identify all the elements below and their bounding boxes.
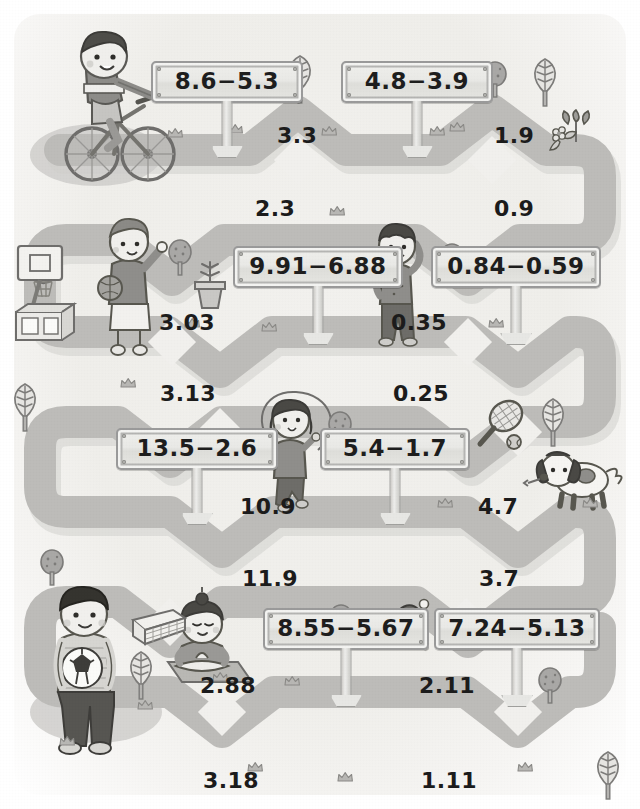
- crown-icon: [489, 319, 503, 327]
- screw-tl: [347, 67, 351, 71]
- answer-3-3: 3.3: [277, 123, 317, 148]
- sign-board: 7.24−5.13: [434, 608, 600, 650]
- sign-post: [390, 468, 401, 514]
- answer-0-9: 0.9: [494, 196, 534, 221]
- screw-bl: [239, 278, 243, 282]
- answer-4-7: 4.7: [478, 494, 518, 519]
- screw-br: [591, 278, 595, 282]
- answer-3-18: 3.18: [203, 768, 259, 793]
- sign-expression: 8.6−5.3: [165, 70, 289, 93]
- sign-expression: 0.84−0.59: [445, 255, 587, 278]
- sign-6: 5.4−1.7: [320, 428, 470, 470]
- crown-icon: [338, 773, 352, 781]
- screw-tr: [460, 434, 464, 438]
- sign-board: 9.91−6.88: [233, 246, 403, 288]
- screw-br: [460, 460, 464, 464]
- screw-tr: [483, 67, 487, 71]
- crown-icon: [60, 737, 74, 745]
- crown-icon: [330, 207, 344, 215]
- sign-4: 0.84−0.59: [431, 246, 601, 288]
- crown-icon: [262, 323, 276, 331]
- crown-icon: [138, 701, 152, 709]
- crown-icon: [450, 123, 464, 131]
- crown-icon: [285, 677, 299, 685]
- sign-board: 8.55−5.67: [263, 608, 429, 650]
- screw-tr: [419, 614, 423, 618]
- screw-br: [393, 278, 397, 282]
- answer-3-7: 3.7: [479, 566, 519, 591]
- sign-3: 9.91−6.88: [233, 246, 403, 288]
- screw-br: [590, 640, 594, 644]
- sign-post: [512, 648, 523, 696]
- sign-2: 4.8−3.9: [341, 61, 493, 103]
- crown-icon: [322, 127, 336, 135]
- sign-8: 7.24−5.13: [434, 608, 600, 650]
- screw-tr: [293, 67, 297, 71]
- screw-tr: [393, 252, 397, 256]
- answer-2-11: 2.11: [419, 673, 475, 698]
- crown-icon: [430, 127, 444, 135]
- answer-1-11: 1.11: [421, 768, 477, 793]
- screw-tl: [269, 614, 273, 618]
- crown-icon: [583, 499, 597, 507]
- answer-3-03: 3.03: [159, 310, 215, 335]
- screw-tl: [239, 252, 243, 256]
- sign-expression: 8.55−5.67: [277, 617, 415, 640]
- screw-bl: [122, 460, 126, 464]
- answer-11-9: 11.9: [242, 566, 298, 591]
- screw-tl: [437, 252, 441, 256]
- worksheet-page: 8.6−5.34.8−3.99.91−6.880.84−0.5913.5−2.6…: [0, 0, 640, 809]
- sign-1: 8.6−5.3: [151, 61, 303, 103]
- sign-post: [313, 286, 324, 334]
- crown-decorations: [0, 0, 640, 809]
- answer-2-3: 2.3: [255, 196, 295, 221]
- answer-10-9: 10.9: [240, 494, 296, 519]
- sign-post: [341, 648, 352, 696]
- crown-icon: [121, 379, 135, 387]
- screw-tl: [157, 67, 161, 71]
- sign-expression: 13.5−2.6: [130, 437, 264, 460]
- screw-bl: [440, 640, 444, 644]
- sign-board: 4.8−3.9: [341, 61, 493, 103]
- screw-bl: [347, 93, 351, 97]
- screw-br: [419, 640, 423, 644]
- sign-expression: 9.91−6.88: [247, 255, 389, 278]
- answer-3-13: 3.13: [160, 381, 216, 406]
- crown-icon: [168, 129, 182, 137]
- sign-expression: 4.8−3.9: [355, 70, 479, 93]
- sign-expression: 5.4−1.7: [334, 437, 456, 460]
- answer-2-88: 2.88: [200, 673, 256, 698]
- screw-tl: [326, 434, 330, 438]
- sign-7: 8.55−5.67: [263, 608, 429, 650]
- sign-post: [511, 286, 522, 334]
- sign-post: [222, 101, 233, 147]
- crown-icon: [518, 763, 532, 771]
- screw-br: [293, 93, 297, 97]
- screw-tl: [440, 614, 444, 618]
- sign-5: 13.5−2.6: [116, 428, 278, 470]
- sign-post: [412, 101, 423, 147]
- sign-board: 8.6−5.3: [151, 61, 303, 103]
- screw-bl: [437, 278, 441, 282]
- answer-0-35: 0.35: [391, 310, 447, 335]
- sign-board: 0.84−0.59: [431, 246, 601, 288]
- crown-icon: [438, 499, 452, 507]
- screw-tr: [591, 252, 595, 256]
- answer-1-9: 1.9: [494, 123, 534, 148]
- screw-bl: [269, 640, 273, 644]
- screw-bl: [326, 460, 330, 464]
- sign-expression: 7.24−5.13: [448, 617, 586, 640]
- sign-board: 5.4−1.7: [320, 428, 470, 470]
- screw-tr: [268, 434, 272, 438]
- sign-board: 13.5−2.6: [116, 428, 278, 470]
- screw-br: [483, 93, 487, 97]
- screw-tl: [122, 434, 126, 438]
- sign-post: [192, 468, 203, 514]
- screw-bl: [157, 93, 161, 97]
- screw-tr: [590, 614, 594, 618]
- answer-0-25: 0.25: [393, 381, 449, 406]
- screw-br: [268, 460, 272, 464]
